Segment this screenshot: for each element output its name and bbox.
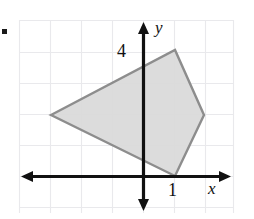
coordinate-grid-figure: y x 4 1 <box>0 0 254 219</box>
y-axis-arrow-down <box>138 199 149 211</box>
x-axis-arrow-right <box>219 171 231 182</box>
y-axis-tick-label: 4 <box>117 42 126 60</box>
y-axis-arrow-up <box>138 22 149 34</box>
x-axis <box>21 171 231 182</box>
x-axis-arrow-left <box>21 171 33 182</box>
x-axis-tick-label: 1 <box>168 181 177 199</box>
x-axis-label: x <box>208 180 216 197</box>
y-axis-label: y <box>155 19 163 36</box>
shaded-polygon <box>51 50 204 176</box>
